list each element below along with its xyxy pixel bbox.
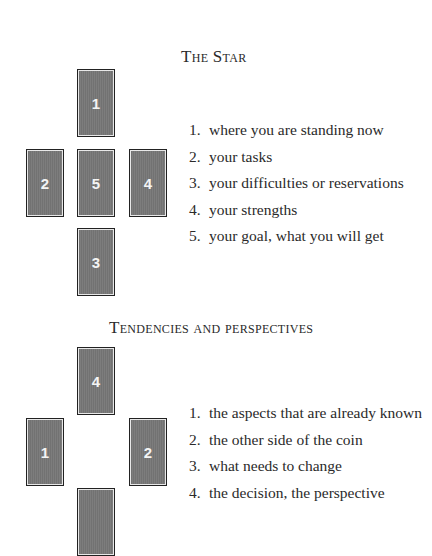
card-position-4: 4 [129,149,167,217]
list-item: 2.the other side of the coin [189,427,422,454]
list-item: 3.what needs to change [189,453,422,480]
card-position-3 [77,488,115,556]
section-title: The Star [181,47,247,67]
position-meanings-list: 1.where you are standing now 2.your task… [189,117,404,250]
list-item: 5.your goal, what you will get [189,223,404,250]
list-item: 1.the aspects that are already known [189,400,422,427]
section-title: Tendencies and perspectives [109,318,313,338]
position-meanings-list: 1.the aspects that are already known 2.t… [189,400,422,506]
list-item: 1.where you are standing now [189,117,404,144]
card-position-1: 1 [26,418,64,486]
card-position-2: 2 [129,418,167,486]
card-position-1: 1 [77,69,115,137]
list-item: 2.your tasks [189,144,404,171]
card-position-4: 4 [77,347,115,415]
card-position-2: 2 [26,149,64,217]
list-item: 4.your strengths [189,197,404,224]
list-item: 4.the decision, the perspective [189,480,422,507]
list-item: 3.your difficulties or reservations [189,170,404,197]
card-position-3: 3 [77,228,115,296]
card-position-5: 5 [77,149,115,217]
